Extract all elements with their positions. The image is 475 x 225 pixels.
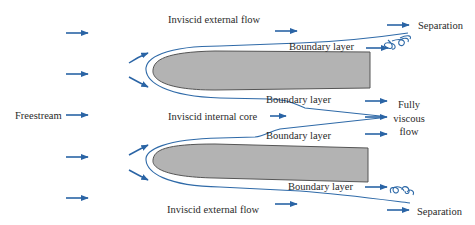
label-viscous: viscous [392,114,426,125]
upper-plate [153,51,370,90]
freestream-arrows [66,33,88,198]
label-top-boundary-layer-outer: Boundary layer [289,42,354,53]
label-top-external-flow: Inviscid external flow [168,15,260,26]
label-inviscid-internal-core: Inviscid internal core [168,112,257,123]
label-bottom-boundary-layer-outer: Boundary layer [288,182,353,193]
label-fully: Fully [394,100,424,111]
label-bottom-external-flow: Inviscid external flow [167,205,259,216]
lower-plate [153,144,368,182]
stagnation-deflection-arrows [129,53,148,180]
label-top-boundary-layer-inner: Boundary layer [266,95,331,106]
label-freestream: Freestream [15,111,62,122]
label-bottom-separation: Separation [417,207,462,218]
label-bottom-boundary-layer-inner: Boundary layer [266,131,331,142]
label-flow: flow [394,127,424,138]
label-top-separation: Separation [418,21,463,32]
